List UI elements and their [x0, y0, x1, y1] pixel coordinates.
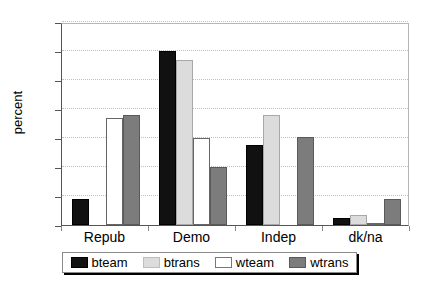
legend-label-bteam: bteam: [92, 256, 128, 269]
bar-wteam-demo: [193, 138, 210, 225]
legend-label-wteam: wteam: [236, 256, 274, 269]
bar-bteam-repub: [72, 199, 89, 225]
bar-bteam-demo: [159, 51, 176, 225]
bar-chart: percent 010203040506070 RepubDemoIndepdk…: [0, 0, 423, 290]
bar-wtrans-dkna: [384, 199, 401, 225]
bar-btrans-dkna: [350, 215, 367, 225]
legend-item-btrans[interactable]: btrans: [143, 256, 200, 269]
legend-item-bteam[interactable]: bteam: [71, 256, 128, 269]
plot-area: [61, 23, 409, 226]
bar-bteam-dkna: [333, 218, 350, 225]
bar-wtrans-demo: [210, 167, 227, 225]
chart-legend: bteambtranswteamwtrans: [62, 252, 357, 273]
white-swatch: [215, 257, 232, 268]
gridline-70: [62, 21, 408, 22]
bar-group-dkna: [323, 24, 410, 225]
medium-gray-swatch: [289, 257, 306, 268]
bar-bteam-indep: [246, 145, 263, 225]
legend-item-wtrans[interactable]: wtrans: [289, 256, 348, 269]
bar-group-indep: [236, 24, 323, 225]
black-swatch: [71, 257, 88, 268]
legend-label-btrans: btrans: [164, 256, 200, 269]
bar-group-demo: [149, 24, 236, 225]
bar-btrans-indep: [263, 115, 280, 225]
legend-label-wtrans: wtrans: [310, 256, 348, 269]
x-tick-label-dkna: dk/na: [306, 229, 423, 245]
bar-wteam-repub: [106, 118, 123, 225]
bar-wteam-dkna: [367, 223, 384, 225]
bar-wtrans-repub: [123, 115, 140, 225]
legend-item-wteam[interactable]: wteam: [215, 256, 274, 269]
bar-wtrans-indep: [297, 137, 314, 225]
light-gray-swatch: [143, 257, 160, 268]
bar-group-repub: [62, 24, 149, 225]
y-axis-title: percent: [11, 53, 24, 173]
bar-btrans-demo: [176, 60, 193, 225]
